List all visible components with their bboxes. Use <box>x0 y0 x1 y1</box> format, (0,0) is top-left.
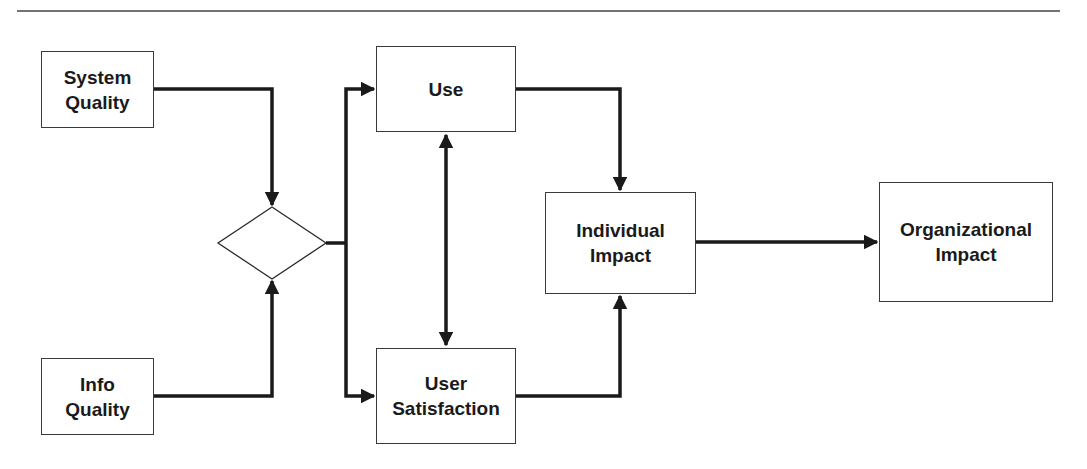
node-system-quality: System Quality <box>41 51 154 128</box>
node-label: Organizational Impact <box>900 217 1032 267</box>
edge-system-quality-to-junction <box>154 89 272 205</box>
node-label: System Quality <box>64 65 132 115</box>
node-label: Individual Impact <box>576 218 665 268</box>
node-label: Info Quality <box>65 372 129 422</box>
node-organizational-impact: Organizational Impact <box>879 182 1053 302</box>
edge-info-quality-to-junction <box>154 281 272 396</box>
node-individual-impact: Individual Impact <box>545 192 696 294</box>
edge-junction-to-user-satisfaction <box>346 243 374 396</box>
edge-use-to-individual-impact <box>516 89 620 190</box>
node-label: Use <box>429 77 464 102</box>
edge-junction-to-use <box>346 89 374 243</box>
node-info-quality: Info Quality <box>41 358 154 435</box>
edge-user-satisfaction-to-individual-impact <box>516 296 620 396</box>
junction-diamond <box>218 207 326 279</box>
node-use: Use <box>376 46 516 132</box>
node-user-satisfaction: User Satisfaction <box>376 348 516 444</box>
node-label: User Satisfaction <box>392 371 500 421</box>
diagram-canvas: System Quality Info Quality Use User Sat… <box>0 0 1087 469</box>
